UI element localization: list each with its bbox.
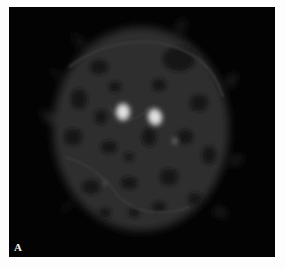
brain-scan-image	[9, 7, 275, 257]
panel-label: A	[14, 241, 22, 253]
scan-image-panel: A	[9, 7, 275, 257]
page-footer-area	[0, 258, 285, 269]
